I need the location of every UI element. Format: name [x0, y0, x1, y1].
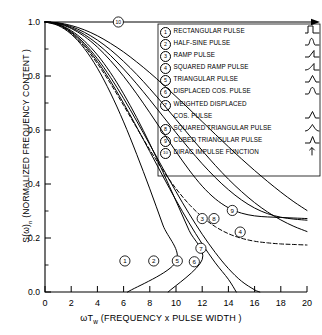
x-tick-label: 0 [42, 298, 47, 308]
squared-ramp-pulse-icon [305, 62, 320, 73]
legend-label-2: HALF-SINE PULSE [174, 38, 304, 46]
figure-container: 12345678910 0.00.20.40.60.81.00246810121… [0, 0, 322, 335]
legend-item-1: 1RECTANGULAR PULSE [160, 26, 320, 38]
triangular-pulse-icon [305, 74, 320, 85]
legend-label-1: RECTANGULAR PULSE [174, 26, 304, 34]
legend-label-7-line2: COS. PULSE [174, 111, 322, 119]
svg-text:10: 10 [116, 19, 122, 25]
legend-item-6: 6DISPLACED COS. PULSE [160, 87, 320, 99]
svg-text:8: 8 [212, 215, 216, 222]
legend-item-2: 2HALF-SINE PULSE [160, 38, 320, 50]
svg-text:5: 5 [176, 257, 180, 264]
legend-number-10: 10 [160, 148, 171, 159]
curve-marker-1: 1 [120, 256, 130, 266]
x-tick-label: 20 [302, 298, 312, 308]
svg-text:1: 1 [123, 257, 127, 264]
cubed-triangular-pulse-icon [305, 135, 320, 146]
legend-item-7-line2: 7COS. PULSE [160, 111, 320, 123]
legend-item-8: 8SQUARED TRIANGULAR PULSE [160, 124, 320, 136]
legend-item-4: 4SQUARED RAMP PULSE [160, 63, 320, 75]
x-tick-label: 16 [250, 298, 260, 308]
legend-number-5: 5 [160, 75, 171, 86]
curve-marker-2: 2 [149, 256, 159, 266]
x-tick-label: 6 [121, 298, 126, 308]
legend-item-7: 7WEIGHTED DISPLACED [160, 99, 320, 111]
ramp-pulse-icon [305, 49, 320, 60]
svg-text:9: 9 [231, 207, 235, 214]
half-sine-pulse-icon [305, 37, 320, 48]
legend-number-9: 9 [160, 136, 171, 147]
curve-marker-7: 7 [196, 243, 206, 253]
weighted-displaced-cos-pulse-icon [305, 110, 320, 121]
x-tick-label: 2 [69, 298, 74, 308]
legend-label-9: CUBED TRIANGULAR PULSE [174, 136, 304, 144]
curve-1 [45, 22, 177, 292]
curve-marker-4: 4 [235, 227, 245, 237]
legend-item-5: 5TRIANGULAR PULSE [160, 75, 320, 87]
legend-item-9: 9CUBED TRIANGULAR PULSE [160, 136, 320, 148]
rectangular-pulse-icon [305, 25, 320, 36]
legend-number-8: 8 [160, 124, 171, 135]
legend-number-6: 6 [160, 87, 171, 98]
legend-number-2: 2 [160, 39, 171, 50]
x-tick-label: 8 [147, 298, 152, 308]
curve-marker-5: 5 [172, 256, 182, 266]
legend-label-5: TRIANGULAR PULSE [174, 75, 304, 83]
x-tick-label: 4 [95, 298, 100, 308]
legend-label-6: DISPLACED COS. PULSE [174, 87, 304, 95]
legend-number-3: 3 [160, 51, 171, 62]
legend-number-1: 1 [160, 27, 171, 38]
legend-label-7: WEIGHTED DISPLACED [174, 99, 304, 107]
x-tick-label: 18 [276, 298, 286, 308]
legend-label-4: SQUARED RAMP PULSE [174, 63, 304, 71]
svg-text:4: 4 [238, 228, 242, 235]
x-tick-label: 12 [197, 298, 207, 308]
legend-label-3: RAMP PULSE [174, 50, 304, 58]
svg-text:3: 3 [200, 215, 204, 222]
legend-label-8: SQUARED TRIANGULAR PULSE [174, 124, 304, 132]
squared-triangular-pulse-icon [305, 123, 320, 134]
curve-marker-6: 6 [189, 257, 199, 267]
svg-text:2: 2 [152, 257, 156, 264]
svg-text:7: 7 [199, 245, 203, 252]
legend-label-10: DIRAC IMPULSE FUNCTION [174, 148, 304, 156]
x-tick-label: 10 [171, 298, 181, 308]
legend-number-7: 7 [160, 100, 171, 111]
svg-text:6: 6 [193, 258, 197, 265]
dirac-impulse-icon [305, 147, 320, 158]
curve-marker-8: 8 [209, 213, 219, 223]
displaced-cos-pulse-icon [305, 86, 320, 97]
legend-item-10: 10DIRAC IMPULSE FUNCTION [160, 148, 320, 160]
curve-marker-10: 10 [113, 17, 123, 27]
legend: 1RECTANGULAR PULSE2HALF-SINE PULSE3RAMP … [160, 26, 320, 160]
legend-number-4: 4 [160, 63, 171, 74]
x-tick-label: 14 [223, 298, 233, 308]
curve-marker-9: 9 [227, 205, 237, 215]
y-axis-label: S(ω)n (NORMALIZED FREQUENCY CONTENT ) [21, 1, 33, 291]
x-axis-label: ωTw (FREQUENCY x PULSE WIDTH ) [0, 313, 322, 325]
curve-marker-3: 3 [197, 213, 207, 223]
legend-item-3: 3RAMP PULSE [160, 50, 320, 62]
